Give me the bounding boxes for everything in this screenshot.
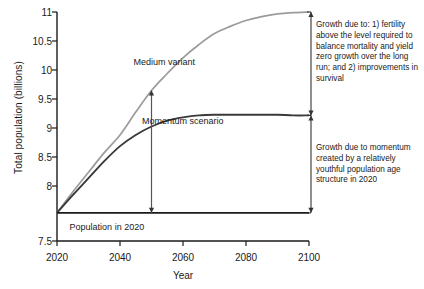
line-medium-variant <box>57 12 309 213</box>
momentum-scenario-label: Momentum scenario <box>142 116 224 126</box>
y-tick-marks <box>52 12 57 241</box>
chart-figure: Total population (billions) 11 10.5 10 9… <box>0 0 424 289</box>
annotation-fertility-note: Growth due to: 1) fertility above the le… <box>316 20 420 85</box>
medium-variant-label: Medium variant <box>134 57 196 67</box>
bracket-momentum <box>307 115 314 212</box>
arrow-2050-double-headed <box>149 91 154 213</box>
x-tick-marks <box>57 241 309 246</box>
population-2020-label: Population in 2020 <box>70 222 145 232</box>
bracket-fertility <box>307 12 314 115</box>
annotation-momentum-note: Growth due to momentum created by a rela… <box>316 143 420 186</box>
